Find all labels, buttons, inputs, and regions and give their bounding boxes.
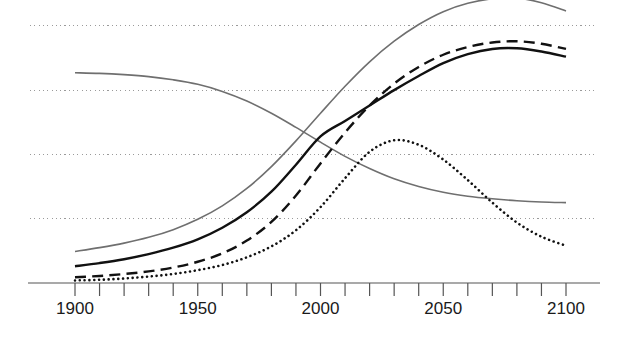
- x-tick-label-2100: 2100: [547, 299, 585, 318]
- line-chart: 19001950200020502100: [0, 0, 626, 341]
- x-axis: [28, 283, 600, 296]
- x-tick-label-2000: 2000: [302, 299, 340, 318]
- plot-lines: [75, 0, 566, 280]
- x-axis-tick-labels: 19001950200020502100: [56, 299, 585, 318]
- series-line-rising-gray-upper: [75, 0, 566, 251]
- gridlines: [30, 26, 598, 219]
- series-line-dotted-black: [75, 140, 566, 280]
- x-tick-label-1950: 1950: [179, 299, 217, 318]
- x-tick-label-2050: 2050: [424, 299, 462, 318]
- series-line-solid-black: [75, 48, 566, 266]
- x-tick-label-1900: 1900: [56, 299, 94, 318]
- chart-canvas: 19001950200020502100: [0, 0, 626, 341]
